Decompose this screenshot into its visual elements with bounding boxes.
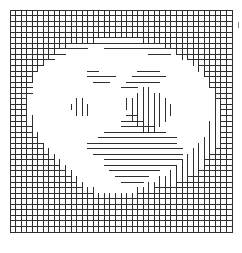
lattice-bond-layer — [10, 10, 232, 232]
lattice-diagram — [0, 0, 242, 253]
percolation-figure — [0, 0, 242, 253]
